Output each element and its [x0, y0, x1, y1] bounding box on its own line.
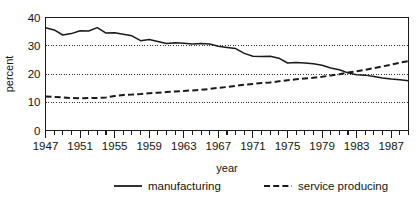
x-tick-label-1963: 1963	[171, 140, 197, 152]
x-tick-label-1947: 1947	[33, 140, 59, 152]
x-tick-label-1955: 1955	[102, 140, 128, 152]
x-tick-label-1959: 1959	[136, 140, 162, 152]
x-axis-title: year	[216, 162, 238, 174]
x-tick-label-1987: 1987	[378, 140, 404, 152]
chart-container: 010203040 194719511955195919631967197119…	[0, 0, 420, 202]
x-tick-label-1979: 1979	[309, 140, 335, 152]
x-tick-label-1983: 1983	[344, 140, 370, 152]
x-axis-tick-labels: 1947195119551959196319671971197519791983…	[33, 140, 404, 152]
y-tick-label-20: 20	[28, 68, 41, 80]
x-tick-label-1975: 1975	[275, 140, 301, 152]
line-chart: 010203040 194719511955195919631967197119…	[0, 0, 420, 202]
y-tick-label-40: 40	[28, 12, 41, 24]
x-tick-label-1967: 1967	[206, 140, 232, 152]
chart-background	[0, 0, 420, 202]
x-tick-label-1951: 1951	[67, 140, 93, 152]
legend-label-manufacturing: manufacturing	[148, 180, 221, 192]
x-tick-label-1971: 1971	[240, 140, 266, 152]
y-axis-title: percent	[3, 56, 15, 93]
legend-label-service-producing: service producing	[298, 180, 388, 192]
y-tick-label-0: 0	[34, 125, 40, 137]
y-tick-label-30: 30	[28, 40, 41, 52]
y-tick-label-10: 10	[28, 96, 41, 108]
